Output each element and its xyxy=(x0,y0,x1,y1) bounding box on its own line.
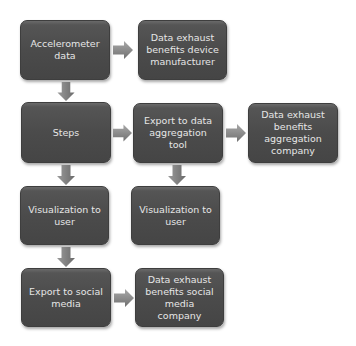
node-export-to-social-media: Export to social media xyxy=(21,268,111,327)
node-data-exhaust-device-manufacturer: Data exhaust benefits device manufacture… xyxy=(138,20,227,80)
node-label: Visualization to user xyxy=(138,204,213,228)
node-label: Export to social media xyxy=(28,286,104,310)
arrow-right-icon xyxy=(226,124,246,142)
arrow-right-icon xyxy=(114,289,134,307)
node-label: Data exhaust benefits aggregation compan… xyxy=(255,109,331,157)
arrow-down-icon xyxy=(57,165,75,185)
arrow-down-icon xyxy=(168,165,186,185)
node-data-exhaust-aggregation-company: Data exhaust benefits aggregation compan… xyxy=(248,103,338,163)
node-label: Data exhaust benefits device manufacture… xyxy=(145,32,220,68)
node-label: Data exhaust benefits social media compa… xyxy=(142,274,217,322)
arrow-right-icon xyxy=(113,41,133,59)
flowchart-diagram: Accelerometer data Data exhaust benefits… xyxy=(0,0,356,346)
node-visualization-to-user-left: Visualization to user xyxy=(20,186,109,245)
node-label: Accelerometer data xyxy=(27,38,103,62)
node-accelerometer-data: Accelerometer data xyxy=(20,20,110,80)
node-steps: Steps xyxy=(21,102,111,163)
arrow-down-icon xyxy=(57,82,75,101)
node-label: Steps xyxy=(53,127,80,139)
arrow-down-icon xyxy=(57,247,75,267)
node-data-exhaust-social-media-company: Data exhaust benefits social media compa… xyxy=(135,268,224,327)
node-export-to-data-aggregation-tool: Export to data aggregation tool xyxy=(133,103,223,163)
node-visualization-to-user-right: Visualization to user xyxy=(131,186,220,245)
node-label: Export to data aggregation tool xyxy=(140,115,216,151)
arrow-right-icon xyxy=(113,124,132,142)
node-label: Visualization to user xyxy=(27,204,102,228)
